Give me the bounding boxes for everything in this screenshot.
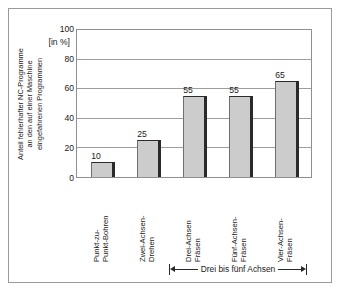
x-category-zwei-achsen-drehen: Zwei-Achsen- Drehen (130, 186, 164, 262)
x-category-line-2: Fräsen (193, 238, 202, 262)
bar-punkt-zu-punkt-bohren (91, 162, 115, 177)
bar-fuenf-achsen-fraesen (229, 96, 253, 177)
bar-value-vier-achsen-fraesen: 65 (262, 71, 298, 80)
bar-value-punkt-zu-punkt-bohren: 10 (78, 152, 114, 161)
y-axis-title-line-1: Anteil fehlerhafter NC-Programme (16, 48, 26, 160)
y-tick-40: 40 (48, 114, 74, 123)
x-category-drei-achsen-fraesen: Drei-Achsen Fräsen (176, 186, 210, 262)
bracket-label: Drei bis fünf Achsen (198, 264, 278, 274)
y-axis-title-line-2: an den auf einer Maschine (25, 60, 35, 147)
x-category-fuenf-achsen-fraesen: Fünf-Achsen- Fräsen (222, 186, 256, 262)
x-category-line-2: Punkt-Bohren (101, 216, 110, 262)
x-category-line-1: Punkt-zu- (92, 230, 101, 263)
range-annotation-bracket: Drei bis fünf Achsen (168, 262, 308, 278)
bar-value-drei-achsen-fraesen: 55 (170, 86, 206, 95)
y-tick-60: 60 (48, 84, 74, 93)
chart-figure: Anteil fehlerhafter NC-Programme an den … (0, 0, 342, 295)
x-category-line-2: Fräsen (239, 238, 248, 262)
bar-drei-achsen-fraesen (183, 96, 207, 177)
x-category-vier-achsen-fraesen: Vier-Achsen- Fräsen (268, 186, 302, 262)
x-category-line-2: Fräsen (285, 238, 294, 262)
x-category-line-1: Vier-Achsen- (276, 218, 285, 262)
x-category-line-2: Drehen (147, 237, 156, 262)
bar-zwei-achsen-drehen (137, 140, 161, 177)
y-axis-title: Anteil fehlerhafter NC-Programme an den … (14, 18, 46, 190)
bar-value-fuenf-achsen-fraesen: 55 (216, 86, 252, 95)
bar-vier-achsen-fraesen (275, 81, 299, 177)
x-category-line-1: Fünf-Achsen- (230, 216, 239, 262)
x-category-line-1: Drei-Achsen (184, 220, 193, 262)
bracket-label-wrapper: Drei bis fünf Achsen (168, 263, 308, 276)
y-axis-title-line-3: eingefahrenen Programmen (35, 58, 45, 150)
y-tick-100: 100 (48, 25, 74, 34)
gridline-80 (77, 59, 311, 60)
y-axis-unit-label: [in %] (44, 38, 70, 47)
bar-value-zwei-achsen-drehen: 25 (124, 130, 160, 139)
y-tick-20: 20 (48, 144, 74, 153)
y-tick-0: 0 (48, 174, 74, 183)
x-category-punkt-zu-punkt-bohren: Punkt-zu- Punkt-Bohren (84, 186, 118, 262)
x-category-line-1: Zwei-Achsen- (138, 216, 147, 262)
y-tick-80: 80 (48, 55, 74, 64)
